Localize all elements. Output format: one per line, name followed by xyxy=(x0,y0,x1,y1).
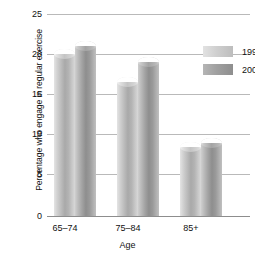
bar-body xyxy=(75,46,96,216)
bar-body xyxy=(138,62,159,216)
bar-body xyxy=(117,82,138,216)
bar-1997-85-plus xyxy=(180,142,201,216)
bar-2006-75-84 xyxy=(138,57,159,216)
y-tick-label-15: 15 xyxy=(32,89,42,99)
legend-item-2006: 2006 xyxy=(203,62,255,77)
bar-body xyxy=(201,143,222,216)
legend-label-1997: 1997 xyxy=(242,47,255,57)
y-tick-label-25: 25 xyxy=(32,9,42,19)
bar-chart: Percentage who engage in regular exercis… xyxy=(0,0,255,265)
y-tick-label-0: 0 xyxy=(37,211,42,221)
plot-area: 25 20 15 10 5 0 xyxy=(47,14,250,217)
y-axis-title: Percentage who engage in regular exercis… xyxy=(34,10,44,210)
bar-body xyxy=(180,147,201,216)
legend-item-1997: 1997 xyxy=(203,44,255,59)
bar-2006-85-plus xyxy=(201,138,222,216)
x-tick-label-85-plus: 85+ xyxy=(167,223,215,233)
legend-label-2006: 2006 xyxy=(242,65,255,75)
x-axis-title: Age xyxy=(0,240,255,250)
bar-1997-75-84 xyxy=(117,77,138,216)
x-tick-label-65-74: 65–74 xyxy=(41,223,89,233)
legend: 1997 2006 xyxy=(203,44,255,80)
y-tick-label-10: 10 xyxy=(32,129,42,139)
bar-2006-65-74 xyxy=(75,41,96,216)
y-tick-label-20: 20 xyxy=(32,49,42,59)
bar-1997-65-74 xyxy=(54,49,75,216)
x-tick-label-75-84: 75–84 xyxy=(104,223,152,233)
bar-body xyxy=(54,54,75,216)
y-tick-label-5: 5 xyxy=(37,169,42,179)
legend-swatch-2006 xyxy=(203,64,233,75)
legend-swatch-1997 xyxy=(203,46,233,57)
